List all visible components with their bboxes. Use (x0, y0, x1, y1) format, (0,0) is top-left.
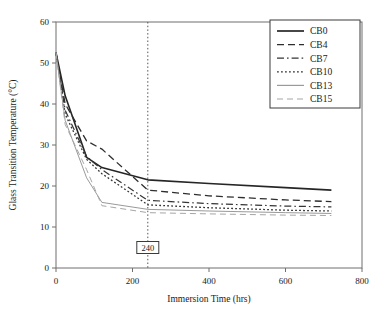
y-tick-label: 20 (40, 181, 50, 191)
x-axis-ticks: 0200400600800 (54, 268, 370, 286)
x-axis-title: Immersion Time (hrs) (167, 294, 250, 305)
legend-label-cb10: CB10 (310, 67, 332, 77)
x-tick-label: 0 (54, 276, 59, 286)
x-tick-label: 400 (202, 276, 216, 286)
y-tick-label: 60 (40, 17, 50, 27)
chart-legend: CB0CB4CB7CB10CB13CB15 (270, 20, 360, 108)
legend-label-cb0: CB0 (310, 26, 328, 36)
x-tick-label: 800 (355, 276, 369, 286)
glass-transition-line-chart: 0102030405060 0200400600800 Glass Transi… (0, 0, 390, 314)
y-axis-title: Glass Transition Temperature (°C) (8, 80, 19, 211)
y-tick-label: 0 (45, 263, 50, 273)
marker-label: 240 (141, 243, 154, 253)
x-tick-label: 600 (279, 276, 293, 286)
legend-label-cb4: CB4 (310, 40, 328, 50)
legend-label-cb13: CB13 (310, 81, 332, 91)
y-tick-label: 40 (40, 99, 50, 109)
legend-label-cb7: CB7 (310, 54, 328, 64)
y-tick-label: 50 (40, 58, 50, 68)
y-tick-label: 30 (40, 140, 50, 150)
y-axis-ticks: 0102030405060 (40, 17, 56, 273)
legend-label-cb15: CB15 (310, 94, 332, 104)
y-tick-label: 10 (40, 222, 50, 232)
chart-container: 0102030405060 0200400600800 Glass Transi… (0, 0, 390, 314)
x-tick-label: 200 (126, 276, 140, 286)
